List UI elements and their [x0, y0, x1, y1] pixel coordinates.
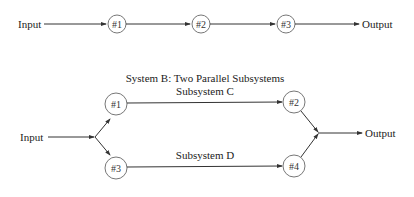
system-a-output-label: Output	[362, 18, 393, 30]
subsystem-c-label: Subsystem C	[176, 85, 234, 97]
edge-2-to-merge	[301, 111, 318, 132]
edge-4-to-merge	[301, 134, 318, 157]
system-a-node-1-label: #1	[112, 19, 122, 30]
system-b-node-3-label: #3	[111, 163, 121, 174]
system-b-output-label: Output	[365, 127, 396, 139]
edge-branch-to-1	[95, 119, 110, 137]
system-a-input-label: Input	[18, 18, 41, 30]
edge-1-to-2	[127, 102, 282, 103]
system-b-node-4-label: #4	[289, 161, 299, 172]
system-a-node-2-label: #2	[196, 19, 206, 30]
subsystem-d-label: Subsystem D	[176, 149, 234, 161]
system-a-node-3-label: #3	[281, 19, 291, 30]
edge-branch-to-3	[95, 137, 110, 155]
system-b-node-2-label: #2	[289, 97, 299, 108]
system-b-title: System B: Two Parallel Subsystems	[126, 72, 285, 84]
diagram-svg: Input #1 #2 #3 Output System B: Two Para…	[0, 0, 414, 197]
system-b-node-1-label: #1	[111, 99, 121, 110]
edge-3-to-4	[127, 166, 282, 167]
reliability-diagram: Input #1 #2 #3 Output System B: Two Para…	[0, 0, 414, 197]
system-a: Input #1 #2 #3 Output	[18, 15, 393, 33]
system-b-input-label: Input	[20, 131, 43, 143]
system-b: System B: Two Parallel Subsystems Subsys…	[20, 72, 396, 179]
